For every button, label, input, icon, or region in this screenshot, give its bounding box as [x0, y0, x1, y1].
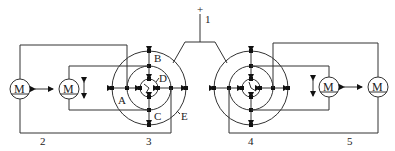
label-3: 3: [146, 135, 152, 147]
label-A: A: [118, 94, 126, 106]
label-2: 2: [40, 135, 46, 147]
right-assembly: 4: [212, 49, 290, 147]
motor-label: M: [63, 82, 74, 96]
label-5: 5: [347, 135, 353, 147]
motor-label: M: [372, 80, 383, 94]
left-assembly: B D A C E 3: [110, 49, 188, 147]
motor-label: M: [14, 82, 25, 96]
label-1: 1: [205, 13, 211, 25]
plus-sign: +: [197, 3, 203, 15]
label-B: B: [154, 52, 161, 64]
motor-label: M: [323, 80, 334, 94]
power-supply: + 1: [173, 3, 227, 63]
label-E: E: [181, 110, 188, 122]
label-4: 4: [248, 135, 254, 147]
label-D: D: [159, 72, 167, 84]
left-motor-group: M M 2: [10, 45, 171, 147]
diagram-canvas: + 1 B D A C E 3: [0, 0, 395, 151]
label-C: C: [154, 110, 161, 122]
